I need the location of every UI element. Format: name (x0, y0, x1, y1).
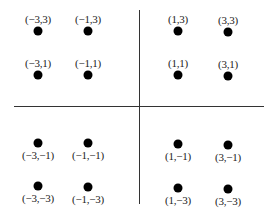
dot-icon (84, 183, 93, 192)
point-label: (−3,−3) (22, 192, 54, 204)
point-label: (3,−3) (215, 195, 241, 207)
dot-icon (174, 140, 183, 149)
vertical-axis (139, 10, 140, 204)
dot-icon (34, 139, 43, 148)
dot-icon (174, 71, 183, 80)
point-label: (−1,1) (75, 57, 101, 69)
dot-icon (224, 141, 233, 150)
point-label: (−3,1) (25, 57, 51, 69)
point-label: (−1,−3) (72, 193, 104, 205)
dot-icon (84, 71, 93, 80)
point-label: (3,−1) (215, 151, 241, 163)
dot-icon (34, 27, 43, 36)
dot-icon (174, 27, 183, 36)
point-label: (1,−3) (165, 194, 191, 206)
dot-icon (34, 71, 43, 80)
point-label: (−1,−1) (72, 149, 104, 161)
point-label: (1,1) (168, 57, 188, 69)
dot-icon (34, 182, 43, 191)
point-label: (3,3) (218, 14, 238, 26)
point-label: (3,1) (218, 58, 238, 70)
point-label: (−1,3) (75, 13, 101, 25)
horizontal-axis (14, 106, 264, 107)
dot-icon (224, 28, 233, 37)
dot-icon (84, 27, 93, 36)
dot-icon (174, 184, 183, 193)
dot-icon (224, 185, 233, 194)
dot-icon (224, 72, 233, 81)
point-label: (−3,−1) (22, 149, 54, 161)
point-label: (1,3) (168, 13, 188, 25)
dot-icon (84, 139, 93, 148)
point-label: (−3,3) (25, 13, 51, 25)
point-label: (1,−1) (165, 150, 191, 162)
constellation-diagram: (−3,3) (−1,3) (1,3) (3,3) (−3,1) (−1,1) … (0, 0, 273, 218)
